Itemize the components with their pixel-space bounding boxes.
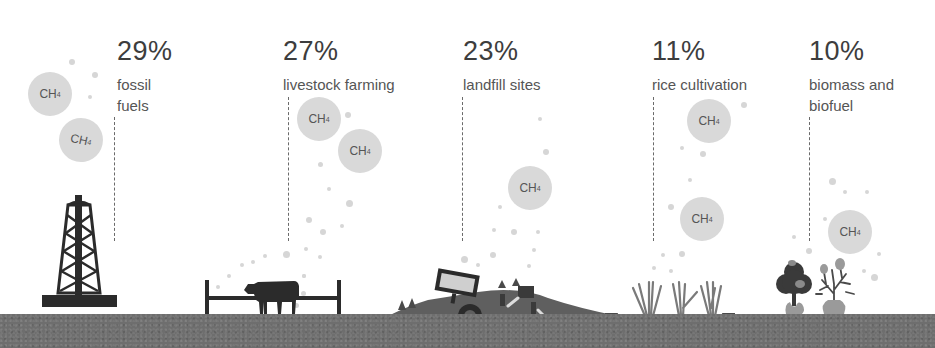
percent-value: 27% <box>283 36 395 66</box>
bubble-dot <box>543 149 549 155</box>
bubble-dot <box>88 95 92 99</box>
bubble-dot <box>251 260 255 264</box>
source-livestock-farming-label: 27% livestock farming <box>283 36 395 95</box>
source-description: livestock farming <box>283 74 395 95</box>
bubble-dot <box>669 269 673 273</box>
molecule-text: CH <box>519 181 536 195</box>
bubble-dot <box>823 217 827 221</box>
leader-line <box>288 97 289 241</box>
bubble-dot <box>240 263 244 267</box>
bubble-dot <box>661 253 665 257</box>
bubble-dot <box>511 229 517 235</box>
bubble-dot <box>536 230 540 234</box>
desc-line: livestock farming <box>283 74 395 95</box>
molecule-text: CH <box>839 225 856 239</box>
landfill-mound-icon <box>388 270 618 320</box>
bubble-dot <box>668 204 674 210</box>
percent-value: 23% <box>463 36 541 66</box>
molecule-subscript: 4 <box>57 91 61 98</box>
bubble-dot <box>498 205 502 209</box>
ch4-molecule-icon: CH4 <box>687 99 731 143</box>
bubble-dot <box>283 251 290 258</box>
molecule-subscript: 4 <box>87 138 92 146</box>
bubble-dot <box>461 256 468 263</box>
bubble-dot <box>741 102 747 108</box>
desc-line: rice cultivation <box>652 74 747 95</box>
ch4-molecule-icon: CH4 <box>680 197 724 241</box>
source-description: fossil fuels <box>117 74 173 116</box>
bubble-dot <box>263 254 267 258</box>
bubble-dot <box>320 229 326 235</box>
bubble-dot <box>532 248 536 252</box>
molecule-subscript: 4 <box>537 185 541 192</box>
bubble-dot <box>476 263 480 267</box>
desc-line: fossil <box>117 74 173 95</box>
molecule-text: CH <box>349 144 366 158</box>
bubble-dot <box>304 247 308 251</box>
molecule-subscript: 4 <box>709 216 713 223</box>
leader-line <box>809 117 810 241</box>
bubble-dot <box>679 251 685 257</box>
ch4-molecule-icon: CH4 <box>55 114 107 166</box>
methane-sources-infographic: 29% fossil fuels CH4 CH4 27% livestock f… <box>0 0 935 348</box>
desc-line: biomass and <box>809 74 894 95</box>
desc-line: fuels <box>117 95 173 116</box>
ch4-molecule-icon: CH4 <box>338 129 382 173</box>
bubble-dot <box>652 266 656 270</box>
source-fossil-fuels-label: 29% fossil fuels <box>117 36 173 116</box>
bubble-dot <box>490 252 496 258</box>
bubble-dot <box>345 112 351 118</box>
ground-band <box>0 314 935 348</box>
source-description: landfill sites <box>463 74 541 95</box>
bubble-dot <box>306 217 312 223</box>
bubble-dot <box>346 200 353 207</box>
molecule-text: CH <box>39 87 56 101</box>
source-rice-cultivation-label: 11% rice cultivation <box>652 36 747 95</box>
source-biomass-biofuel-label: 10% biomass and biofuel <box>809 36 894 116</box>
bubble-dot <box>327 187 331 191</box>
bubble-dot <box>865 190 869 194</box>
ch4-molecule-icon: CH4 <box>28 72 72 116</box>
bubble-dot <box>680 146 684 150</box>
percent-value: 11% <box>652 36 747 66</box>
molecule-subscript: 4 <box>326 116 330 123</box>
molecule-text: CH <box>698 114 715 128</box>
molecule-subscript: 4 <box>716 118 720 125</box>
ch4-molecule-icon: CH4 <box>297 97 341 141</box>
molecule-text: CH <box>308 112 325 126</box>
molecule-text: CH <box>691 212 708 226</box>
bubble-dot <box>340 224 344 228</box>
bubble-dot <box>792 235 796 239</box>
source-description: rice cultivation <box>652 74 747 95</box>
molecule-text: CH <box>69 131 89 148</box>
bubble-dot <box>843 190 847 194</box>
leader-line <box>462 97 463 241</box>
ch4-molecule-icon: CH4 <box>828 210 872 254</box>
burning-plants-icon <box>776 254 866 316</box>
source-landfill-sites-label: 23% landfill sites <box>463 36 541 95</box>
molecule-subscript: 4 <box>857 229 861 236</box>
bubble-dot <box>492 228 496 232</box>
bubble-dot <box>700 151 706 157</box>
ch4-molecule-icon: CH4 <box>508 166 552 210</box>
bubble-dot <box>527 264 531 268</box>
bubble-dot <box>829 178 836 185</box>
bubble-dot <box>538 117 542 121</box>
oil-derrick-icon <box>40 193 120 315</box>
molecule-subscript: 4 <box>367 148 371 155</box>
bubble-dot <box>871 274 878 281</box>
bubble-dot <box>877 252 881 256</box>
leader-line <box>653 97 654 241</box>
desc-line: biofuel <box>809 95 894 116</box>
bubble-dot <box>92 72 98 78</box>
percent-value: 10% <box>809 36 894 66</box>
source-description: biomass and biofuel <box>809 74 894 116</box>
bubble-dot <box>318 162 323 167</box>
cow-in-pen-icon <box>204 278 344 316</box>
bubble-dot <box>69 59 75 65</box>
bubble-dot <box>688 178 692 182</box>
bubble-dot <box>318 255 322 259</box>
percent-value: 29% <box>117 36 173 66</box>
desc-line: landfill sites <box>463 74 541 95</box>
